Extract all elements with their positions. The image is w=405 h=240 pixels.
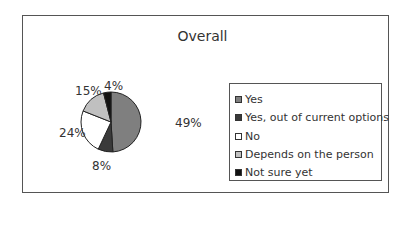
legend-swatch-icon <box>235 96 242 103</box>
legend-item-not-sure: Not sure yet <box>235 166 313 179</box>
legend-swatch-icon <box>235 133 242 140</box>
pie-slice-0 <box>111 92 141 152</box>
legend-item-yes-out-of-options: Yes, out of current options <box>235 111 389 124</box>
slice-label-yes: 49% <box>175 116 202 130</box>
legend-swatch-icon <box>235 169 242 176</box>
slice-label-not-sure: 4% <box>104 79 123 93</box>
legend-item-yes: Yes <box>235 93 263 106</box>
slice-label-yes-out-of-options: 8% <box>92 159 111 173</box>
slice-label-depends: 15% <box>75 84 102 98</box>
legend-swatch-icon <box>235 114 242 121</box>
legend-swatch-icon <box>235 151 242 158</box>
legend-item-no: No <box>235 130 260 143</box>
chart-legend: Yes Yes, out of current options No Depen… <box>229 83 382 181</box>
legend-item-depends: Depends on the person <box>235 148 374 161</box>
slice-label-no: 24% <box>59 126 86 140</box>
